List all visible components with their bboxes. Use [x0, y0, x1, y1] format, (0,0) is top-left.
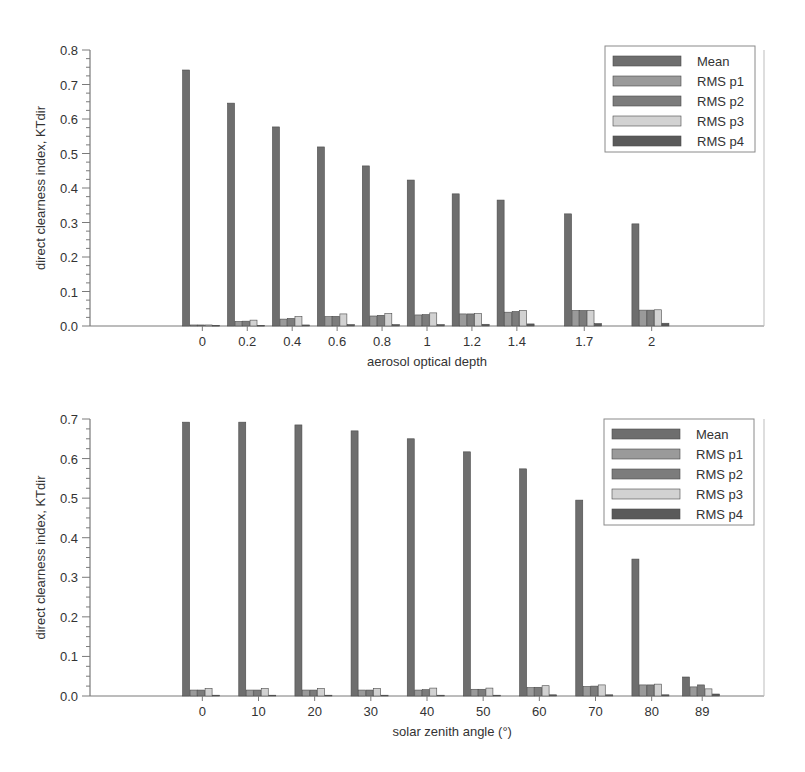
bar-group-1.2 — [452, 194, 489, 326]
bar-rms-p4 — [213, 695, 220, 696]
x-tick-label: 1.4 — [508, 334, 526, 349]
legend-label: RMS p2 — [696, 467, 743, 482]
x-tick-label: 70 — [588, 704, 602, 719]
bar-rms-p2 — [512, 312, 519, 326]
bar-mean — [497, 200, 504, 326]
bar-rms-p1 — [370, 316, 377, 326]
bar-rms-p2 — [287, 318, 294, 326]
legend-swatch-rms-p3 — [613, 116, 681, 126]
x-tick-label: 0.6 — [328, 334, 346, 349]
chart-solar-zenith-angle: 0.00.10.20.30.40.50.60.7direct clearness… — [0, 390, 805, 772]
y-axis-title: direct clearness index, KTdir — [33, 105, 48, 270]
bar-rms-p2 — [591, 686, 598, 696]
y-tick-label: 0.7 — [60, 412, 78, 427]
bar-rms-p1 — [359, 690, 366, 696]
bar-rms-p4 — [550, 695, 557, 696]
x-tick-label: 0 — [199, 704, 206, 719]
bar-mean — [576, 500, 583, 696]
bar-rms-p3 — [705, 689, 712, 696]
x-tick-label: 60 — [532, 704, 546, 719]
x-axis-title: aerosol optical depth — [367, 354, 487, 369]
bar-rms-p1 — [190, 690, 197, 696]
bar-rms-p2 — [647, 310, 654, 326]
bar-rms-p2 — [377, 315, 384, 326]
chart-aerosol-optical-depth: 0.00.10.20.30.40.50.60.70.8direct clearn… — [0, 0, 805, 390]
legend-swatch-rms-p1 — [613, 76, 681, 86]
legend-swatch-rms-p4 — [612, 509, 680, 519]
bar-rms-p3 — [340, 314, 347, 326]
bar-rms-p4 — [712, 694, 719, 696]
bar-rms-p4 — [269, 695, 276, 696]
legend-label: Mean — [697, 54, 730, 69]
bar-rms-p1 — [639, 685, 646, 696]
bar-rms-p1 — [190, 325, 197, 326]
y-tick-label: 0.4 — [60, 531, 78, 546]
bar-rms-p2 — [467, 314, 474, 326]
bar-rms-p4 — [213, 325, 220, 326]
bar-rms-p1 — [325, 317, 332, 326]
bar-rms-p4 — [662, 323, 669, 326]
bar-mean — [183, 422, 190, 696]
bar-group-30 — [351, 431, 388, 696]
bar-group-10 — [239, 422, 276, 696]
bar-rms-p4 — [606, 695, 613, 696]
bar-mean — [682, 677, 689, 696]
bar-group-0.6 — [317, 147, 354, 326]
bar-group-40 — [407, 439, 444, 696]
bar-group-0 — [183, 70, 220, 326]
bar-rms-p2 — [366, 690, 373, 696]
bar-rms-p2 — [478, 689, 485, 696]
bar-rms-p1 — [583, 687, 590, 696]
bar-mean — [317, 147, 324, 326]
legend-label: Mean — [696, 427, 729, 442]
bar-rms-p3 — [205, 325, 212, 326]
bar-rms-p3 — [475, 314, 482, 326]
x-tick-label: 40 — [420, 704, 434, 719]
bar-rms-p4 — [347, 325, 354, 326]
bar-rms-p3 — [430, 313, 437, 326]
x-tick-label: 89 — [695, 704, 709, 719]
bar-mean — [565, 214, 572, 326]
bar-rms-p1 — [415, 315, 422, 326]
bar-rms-p1 — [302, 690, 309, 696]
bar-rms-p1 — [460, 314, 467, 326]
bar-rms-p2 — [198, 325, 205, 326]
bar-rms-p1 — [505, 312, 512, 326]
x-tick-label: 0.8 — [373, 334, 391, 349]
bar-mean — [632, 559, 639, 696]
bar-rms-p2 — [697, 685, 704, 696]
x-tick-label: 0.2 — [238, 334, 256, 349]
legend-swatch-rms-p4 — [613, 136, 681, 146]
bar-mean — [272, 127, 279, 326]
bar-rms-p1 — [639, 310, 646, 326]
bar-rms-p2 — [535, 687, 542, 696]
bar-rms-p1 — [527, 688, 534, 696]
bar-rms-p3 — [205, 688, 212, 696]
bar-rms-p3 — [374, 688, 381, 696]
legend-label: RMS p1 — [696, 447, 743, 462]
bar-group-2 — [632, 224, 669, 326]
bar-rms-p4 — [482, 324, 489, 326]
bar-rms-p2 — [254, 690, 261, 696]
y-tick-label: 0.3 — [60, 570, 78, 585]
bar-rms-p2 — [422, 315, 429, 326]
bar-mean — [183, 70, 190, 326]
bar-mean — [520, 469, 527, 696]
bar-rms-p4 — [527, 324, 534, 326]
bar-rms-p4 — [302, 325, 309, 326]
bar-group-70 — [576, 500, 613, 696]
bar-rms-p3 — [385, 314, 392, 326]
y-tick-label: 0.2 — [60, 610, 78, 625]
bar-group-0 — [183, 422, 220, 696]
bar-mean — [407, 439, 414, 696]
bar-rms-p3 — [542, 686, 549, 696]
bar-group-60 — [520, 469, 557, 696]
bar-mean — [228, 103, 235, 326]
bar-rms-p3 — [317, 688, 324, 696]
legend-swatch-rms-p2 — [613, 96, 681, 106]
bar-rms-p3 — [587, 310, 594, 326]
bar-rms-p3 — [430, 688, 437, 696]
bar-mean — [452, 194, 459, 326]
legend-swatch-rms-p3 — [612, 489, 680, 499]
bar-rms-p2 — [198, 690, 205, 696]
